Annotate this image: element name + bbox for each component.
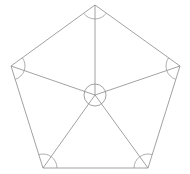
angle-arc-left — [15, 58, 25, 80]
pentagon-outline-group — [11, 5, 180, 168]
radius-center-to-left — [11, 66, 95, 95]
vertex-angle-arcs-group — [15, 13, 176, 168]
angle-arc-right — [166, 58, 176, 80]
pentagon-edge-right-bottomright — [148, 66, 180, 168]
pentagon-diagram-svg — [0, 0, 190, 174]
radii-group — [11, 5, 180, 168]
radius-center-to-bottom-left — [43, 95, 95, 168]
pentagon-edge-top-right — [95, 5, 180, 66]
pentagon-edge-left-top — [11, 5, 95, 66]
pentagon-edge-bottomleft-left — [11, 66, 43, 168]
radius-center-to-right — [95, 66, 180, 95]
geometric-figure-canvas — [0, 0, 190, 174]
radius-center-to-bottom-right — [95, 95, 148, 168]
